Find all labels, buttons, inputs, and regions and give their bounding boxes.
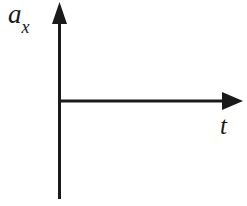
x-axis-arrowhead-icon: [222, 92, 243, 110]
y-axis-arrowhead-icon: [52, 2, 67, 24]
y-axis-label-subscript: x: [22, 17, 30, 37]
acceleration-time-graph: ax t: [0, 0, 247, 206]
y-axis-label-base: a: [8, 0, 22, 29]
axes-drawing: [0, 0, 247, 206]
x-axis-label: t: [220, 113, 227, 138]
y-axis-label: ax: [8, 1, 30, 32]
